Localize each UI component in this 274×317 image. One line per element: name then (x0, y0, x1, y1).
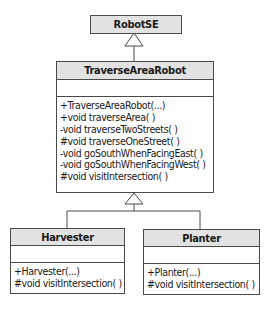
operation: #void visitIntersection( ) (14, 278, 124, 290)
operation: +void traverseArea( ) (60, 112, 213, 124)
attributes-section (11, 246, 124, 263)
attributes-section (144, 247, 259, 264)
class-name: Harvester (11, 229, 124, 246)
class-harvester: Harvester +Harvester(...) #void visitInt… (10, 228, 125, 294)
class-name: RobotSE (91, 16, 181, 33)
class-name: Planter (144, 230, 259, 247)
operations-section: +TraverseAreaRobot(...) +void traverseAr… (57, 97, 213, 183)
class-name: TraverseAreaRobot (57, 62, 213, 80)
class-traversearearobot: TraverseAreaRobot +TraverseAreaRobot(...… (56, 61, 214, 193)
operation: -void traverseTwoStreets( ) (60, 124, 213, 136)
class-planter: Planter +Planter(...) #void visitInterse… (143, 229, 260, 295)
operations-section: +Planter(...) #void visitIntersection( ) (144, 264, 259, 291)
inheritance-arrow-icon (125, 193, 143, 204)
operation: #void traverseOneStreet( ) (60, 136, 213, 148)
class-robotse: RobotSE (90, 15, 182, 34)
inheritance-arrow-icon (125, 33, 143, 46)
operation: #void visitIntersection( ) (60, 171, 213, 183)
operation: #void visitIntersection( ) (147, 279, 259, 291)
operations-section: +Harvester(...) #void visitIntersection(… (11, 263, 124, 290)
attributes-section (57, 80, 213, 97)
